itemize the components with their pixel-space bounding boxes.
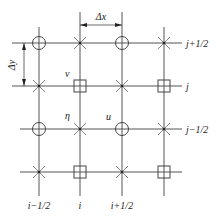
v-label: v (65, 68, 70, 79)
grid-svg: Δx Δy v η u j+1/2 j j−1/2 i−1/2 i i+1/2 (0, 0, 219, 220)
row-label-j-minus-half: j−1/2 (184, 124, 208, 135)
staggered-grid-diagram: Δx Δy v η u j+1/2 j j−1/2 i−1/2 i i+1/2 (0, 0, 219, 220)
dy-label: Δy (6, 59, 17, 71)
eta-label: η (65, 110, 70, 121)
cross-nodes (33, 37, 170, 178)
horizontal-grid-lines (12, 43, 182, 172)
dx-label: Δx (95, 11, 107, 22)
row-label-j: j (184, 81, 189, 92)
dy-dimension (22, 43, 26, 86)
dx-dimension (80, 23, 122, 27)
col-label-i: i (79, 200, 82, 211)
u-label: u (106, 111, 111, 122)
row-label-j-plus-half: j+1/2 (184, 38, 208, 49)
col-label-i-plus-half: i+1/2 (111, 200, 133, 211)
col-label-i-minus-half: i−1/2 (28, 200, 50, 211)
vertical-grid-lines (39, 12, 164, 196)
cross-centers (38, 42, 166, 174)
